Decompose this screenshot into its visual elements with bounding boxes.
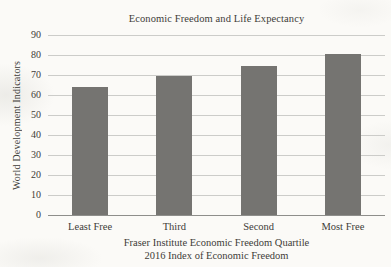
y-tick-label-50: 50 [31, 110, 41, 120]
x-tick-label-most-free: Most Free [301, 221, 385, 232]
y-tick-label-80: 80 [31, 50, 41, 60]
x-tick-label-third: Third [132, 221, 216, 232]
plot-area: 9080706050403020100 [48, 35, 385, 216]
x-tick-label-least-free: Least Free [48, 221, 132, 232]
x-axis-caption: Fraser Institute Economic Freedom Quarti… [48, 236, 385, 262]
chart-figure: Economic Freedom and Life Expectancy Wor… [0, 0, 391, 267]
x-axis-labels: Least FreeThirdSecondMost Free [48, 221, 385, 232]
x-axis-caption-line1: Fraser Institute Economic Freedom Quarti… [48, 236, 385, 249]
y-tick-label-70: 70 [31, 70, 41, 80]
bar-slot-least-free [48, 35, 132, 215]
bar-slot-most-free [301, 35, 385, 215]
y-tick-label-60: 60 [31, 90, 41, 100]
bar-least-free [72, 87, 108, 215]
bar-second [241, 66, 277, 215]
y-tick-label-90: 90 [31, 30, 41, 40]
bar-slot-second [217, 35, 301, 215]
y-tick-label-20: 20 [31, 170, 41, 180]
y-tick-label-10: 10 [31, 190, 41, 200]
y-tick-label-0: 0 [36, 210, 41, 220]
x-tick-label-second: Second [217, 221, 301, 232]
y-tick-label-40: 40 [31, 130, 41, 140]
bars [48, 35, 385, 215]
chart-title: Economic Freedom and Life Expectancy [48, 13, 385, 24]
x-axis-caption-line2: 2016 Index of Economic Freedom [48, 249, 385, 262]
bar-most-free [325, 54, 361, 215]
y-axis-title: World Development Indicators [9, 35, 24, 215]
bar-slot-third [132, 35, 216, 215]
y-tick-label-30: 30 [31, 150, 41, 160]
bar-third [156, 76, 192, 215]
